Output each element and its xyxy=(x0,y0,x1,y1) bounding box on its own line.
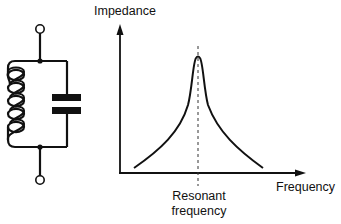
inductor-coil-icon xyxy=(7,68,24,141)
capacitor-icon xyxy=(52,94,81,114)
impedance-graph xyxy=(117,24,307,186)
resonant-label-line1: Resonant xyxy=(164,189,234,204)
diagram-canvas: Impedance Frequency Resonant frequency xyxy=(0,0,341,224)
top-junction-icon xyxy=(37,58,42,63)
y-axis-label: Impedance xyxy=(94,4,156,18)
resonant-label-line2: frequency xyxy=(164,204,234,219)
lc-circuit xyxy=(7,25,81,184)
x-axis-label: Frequency xyxy=(276,180,335,194)
resonant-frequency-label: Resonant frequency xyxy=(164,189,234,219)
bottom-terminal-icon xyxy=(36,176,44,184)
y-axis-arrow-icon xyxy=(117,24,124,35)
top-terminal-icon xyxy=(36,25,44,33)
x-axis-arrow-icon xyxy=(295,170,306,177)
